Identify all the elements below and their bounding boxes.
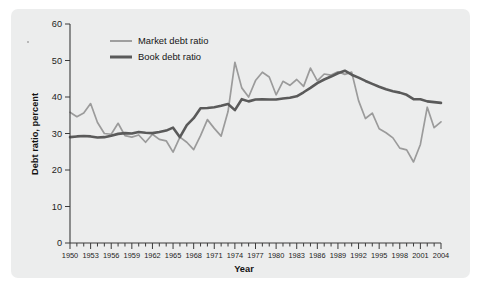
x-tick-label: 2004 xyxy=(433,251,449,260)
x-tick-labels: 1950195319561959196219651968197119741977… xyxy=(62,251,449,260)
x-tick-label: 1977 xyxy=(247,251,263,260)
x-tick-label: 1971 xyxy=(206,251,222,260)
y-tick-label: 60 xyxy=(52,19,62,29)
chart-legend: Market debt ratioBook debt ratio xyxy=(110,35,208,62)
figure-canvas: 0102030405060 19501953195619591962196519… xyxy=(0,0,481,287)
x-tick-label: 1998 xyxy=(392,251,408,260)
x-tick-label: 1968 xyxy=(185,251,201,260)
legend-label-book-debt-ratio: Book debt ratio xyxy=(138,51,201,62)
y-tick-label: 40 xyxy=(52,92,62,102)
y-tick-label: 0 xyxy=(57,238,62,248)
y-tick-labels: 0102030405060 xyxy=(52,19,62,248)
y-tick-label: 50 xyxy=(52,56,62,66)
x-tick-label: 1953 xyxy=(82,251,98,260)
x-tick-label: 1974 xyxy=(227,251,243,260)
x-tick-label: 1965 xyxy=(165,251,181,260)
x-tick-label: 1986 xyxy=(309,251,325,260)
image-artifact-speck xyxy=(27,41,29,43)
series-line-market-debt-ratio xyxy=(70,62,441,162)
y-tick-label: 20 xyxy=(52,165,62,175)
x-tick-label: 1989 xyxy=(330,251,346,260)
line-chart: 0102030405060 19501953195619591962196519… xyxy=(0,0,481,287)
y-tick-label: 10 xyxy=(52,202,62,212)
x-tick-label: 1962 xyxy=(144,251,160,260)
x-tick-label: 1983 xyxy=(288,251,304,260)
x-tick-label: 1995 xyxy=(371,251,387,260)
y-axis-title: Debt ratio, percent xyxy=(30,93,40,175)
x-tick-label: 1956 xyxy=(103,251,119,260)
x-tick-label: 1959 xyxy=(124,251,140,260)
x-tick-label: 2001 xyxy=(412,251,428,260)
legend-label-market-debt-ratio: Market debt ratio xyxy=(138,35,208,46)
plot-series-group xyxy=(70,62,441,162)
x-tick-label: 1992 xyxy=(350,251,366,260)
x-tick-label: 1950 xyxy=(62,251,78,260)
x-tick-label: 1980 xyxy=(268,251,284,260)
x-axis-title: Year xyxy=(234,264,254,274)
y-tick-label: 30 xyxy=(52,129,62,139)
